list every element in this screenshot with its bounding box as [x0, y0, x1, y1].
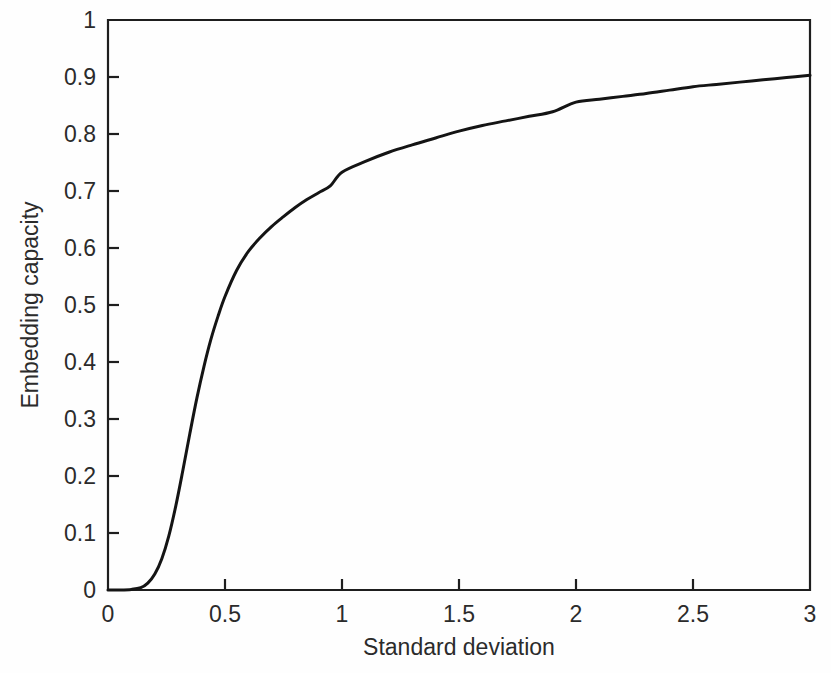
- y-tick-label: 1: [83, 7, 96, 33]
- y-tick-label: 0.3: [64, 406, 96, 432]
- y-tick-label: 0.4: [64, 349, 96, 375]
- y-axis-title: Embedding capacity: [17, 201, 43, 409]
- x-tick-label: 0.5: [209, 601, 241, 627]
- chart-background: [0, 0, 831, 673]
- y-tick-label: 0.9: [64, 64, 96, 90]
- x-tick-label: 0: [102, 601, 115, 627]
- y-tick-label: 0.6: [64, 235, 96, 261]
- y-tick-label: 0.7: [64, 178, 96, 204]
- line-chart: 00.511.522.53 00.10.20.30.40.50.60.70.80…: [0, 0, 831, 673]
- x-tick-label: 1: [336, 601, 349, 627]
- x-tick-label: 2.5: [677, 601, 709, 627]
- figure-canvas: 00.511.522.53 00.10.20.30.40.50.60.70.80…: [0, 0, 831, 673]
- y-tick-label: 0.2: [64, 463, 96, 489]
- x-tick-label: 3: [804, 601, 817, 627]
- y-tick-label: 0: [83, 577, 96, 603]
- x-tick-label: 2: [570, 601, 583, 627]
- y-tick-label: 0.8: [64, 121, 96, 147]
- x-tick-label: 1.5: [443, 601, 475, 627]
- x-axis-title: Standard deviation: [363, 634, 555, 660]
- y-tick-label: 0.1: [64, 520, 96, 546]
- y-tick-label: 0.5: [64, 292, 96, 318]
